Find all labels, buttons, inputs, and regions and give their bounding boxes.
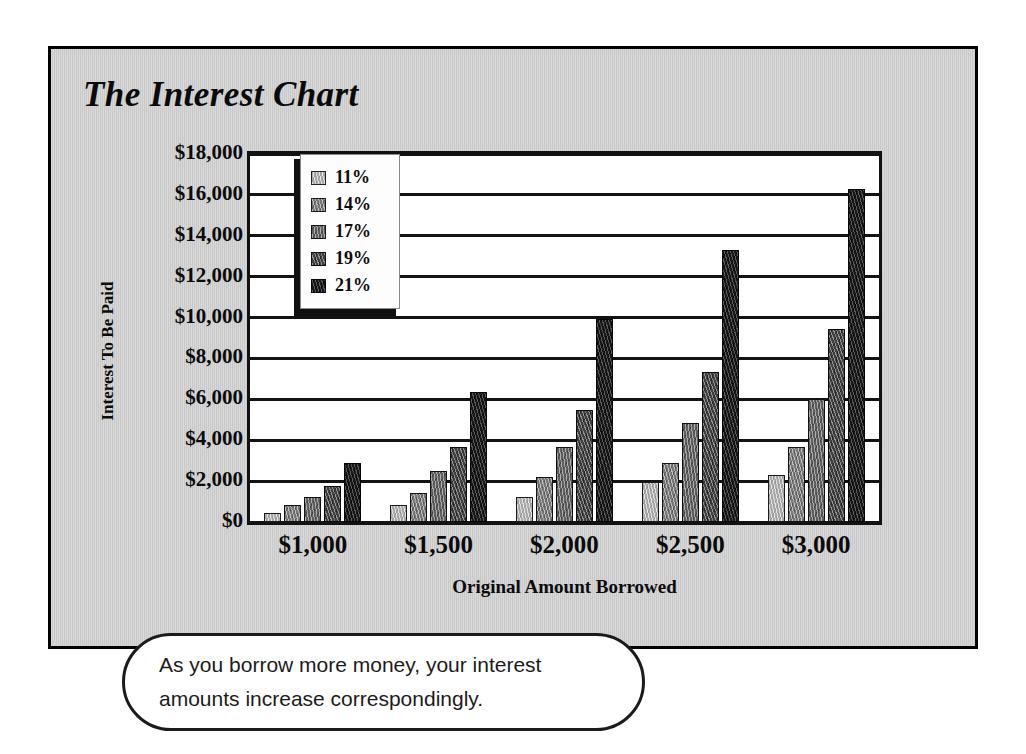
x-axis-tick-labels: $1,000$1,500$2,000$2,500$3,000 bbox=[250, 531, 879, 567]
bar[interactable] bbox=[284, 505, 301, 522]
y-axis-tick-label: $14,000 bbox=[103, 222, 243, 247]
bar-group bbox=[753, 154, 879, 522]
bar[interactable] bbox=[576, 410, 593, 522]
legend-swatch-icon bbox=[311, 171, 326, 185]
legend-label: 19% bbox=[335, 248, 371, 269]
bar[interactable] bbox=[722, 250, 739, 522]
y-axis-tick-label: $6,000 bbox=[103, 385, 243, 410]
legend-swatch-icon bbox=[311, 225, 326, 239]
y-axis-tick-label: $16,000 bbox=[103, 181, 243, 206]
legend-swatch-icon bbox=[311, 279, 326, 293]
legend-item[interactable]: 21% bbox=[311, 272, 399, 299]
legend-label: 14% bbox=[335, 194, 371, 215]
bar[interactable] bbox=[344, 463, 361, 522]
caption-balloon: As you borrow more money, your interest … bbox=[122, 633, 645, 731]
x-axis-tick-label: $2,500 bbox=[627, 531, 753, 559]
x-axis-tick-label: $1,000 bbox=[250, 531, 376, 559]
x-axis-title: Original Amount Borrowed bbox=[247, 576, 882, 598]
bar[interactable] bbox=[304, 497, 321, 522]
legend-swatch-icon bbox=[311, 252, 326, 266]
legend-item[interactable]: 14% bbox=[311, 191, 399, 218]
legend-item[interactable]: 11% bbox=[311, 164, 399, 191]
chart-panel: The Interest Chart Interest To Be Paid $… bbox=[48, 46, 978, 649]
y-axis-tick-label: $4,000 bbox=[103, 426, 243, 451]
legend-item[interactable]: 17% bbox=[311, 218, 399, 245]
bar[interactable] bbox=[828, 329, 845, 522]
x-axis-tick-label: $2,000 bbox=[502, 531, 628, 559]
legend-item[interactable]: 19% bbox=[311, 245, 399, 272]
legend-label: 11% bbox=[335, 167, 370, 188]
bar[interactable] bbox=[596, 319, 613, 522]
bar[interactable] bbox=[662, 463, 679, 522]
page-title: The Interest Chart bbox=[83, 75, 359, 115]
bar[interactable] bbox=[682, 423, 699, 522]
bar[interactable] bbox=[702, 372, 719, 522]
y-axis-tick-label: $10,000 bbox=[103, 304, 243, 329]
bar[interactable] bbox=[788, 447, 805, 522]
bar-group bbox=[502, 154, 628, 522]
x-axis-tick-label: $3,000 bbox=[753, 531, 879, 559]
y-axis-tick-labels: $0$2,000$4,000$6,000$8,000$10,000$12,000… bbox=[95, 151, 243, 525]
bar[interactable] bbox=[430, 471, 447, 522]
bar[interactable] bbox=[556, 447, 573, 522]
y-axis-tick-label: $0 bbox=[103, 508, 243, 533]
y-axis-tick-label: $18,000 bbox=[103, 140, 243, 165]
bar[interactable] bbox=[470, 392, 487, 522]
bar-group bbox=[627, 154, 753, 522]
y-axis-tick-label: $12,000 bbox=[103, 263, 243, 288]
caption-text: As you borrow more money, your interest … bbox=[159, 648, 608, 716]
x-axis-tick-label: $1,500 bbox=[376, 531, 502, 559]
bar[interactable] bbox=[390, 505, 407, 522]
bar[interactable] bbox=[768, 475, 785, 522]
bar[interactable] bbox=[324, 486, 341, 522]
bar[interactable] bbox=[642, 482, 659, 522]
bar[interactable] bbox=[410, 493, 427, 522]
legend-box: 11%14%17%19%21% bbox=[300, 154, 400, 309]
y-axis-tick-label: $8,000 bbox=[103, 344, 243, 369]
bar[interactable] bbox=[264, 513, 281, 522]
legend-label: 21% bbox=[335, 275, 371, 296]
bar[interactable] bbox=[848, 189, 865, 522]
legend-label: 17% bbox=[335, 221, 371, 242]
bar[interactable] bbox=[516, 497, 533, 522]
bar[interactable] bbox=[450, 447, 467, 522]
y-axis-tick-label: $2,000 bbox=[103, 467, 243, 492]
bar[interactable] bbox=[536, 477, 553, 522]
bar[interactable] bbox=[808, 399, 825, 522]
legend-swatch-icon bbox=[311, 198, 326, 212]
